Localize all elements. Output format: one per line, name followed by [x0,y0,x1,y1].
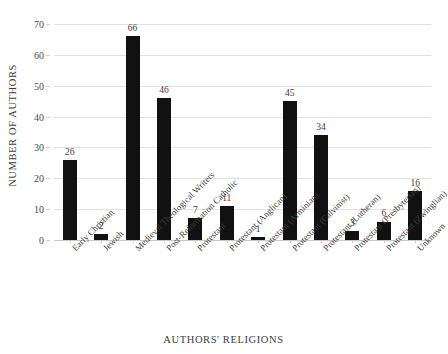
x-tick-mark [101,240,102,243]
x-axis-ticks: Early ChristianJewishMedieval Theologica… [54,240,431,335]
x-tick-mark [164,240,165,243]
gridline [54,55,431,56]
y-tick-mark [46,86,50,87]
x-tick-mark [321,240,322,243]
y-tick-mark [46,24,50,25]
x-axis-title: AUTHORS' RELIGIONS [0,334,447,345]
x-tick-mark [290,240,291,243]
bar [63,160,77,240]
bar-value-label: 66 [128,23,138,33]
bar-value-label: 46 [159,85,169,95]
y-tick-label: 0 [39,235,44,246]
y-tick-label: 40 [34,111,44,122]
y-tick-label: 20 [34,173,44,184]
gridline [54,147,431,148]
y-tick-label: 70 [34,19,44,30]
y-tick-label: 10 [34,204,44,215]
x-tick-mark [195,240,196,243]
bar-value-label: 26 [65,147,75,157]
y-tick-label: 60 [34,49,44,60]
y-tick-mark [46,178,50,179]
bar-value-label: 34 [316,122,326,132]
x-tick-mark [258,240,259,243]
bar [126,36,140,240]
y-tick-mark [46,147,50,148]
y-tick-label: 30 [34,142,44,153]
x-tick-mark [415,240,416,243]
x-tick-mark [352,240,353,243]
y-tick-mark [46,117,50,118]
gridline [54,24,431,25]
x-tick-mark [70,240,71,243]
gridline [54,178,431,179]
plot-area: 2626646711145343616 [54,24,431,240]
y-tick-mark [46,55,50,56]
y-axis-ticks: 010203040506070 [0,24,50,240]
y-tick-label: 50 [34,80,44,91]
gridline [54,86,431,87]
y-tick-mark [46,209,50,210]
x-tick-mark [133,240,134,243]
bar-value-label: 45 [285,88,295,98]
x-tick-mark [384,240,385,243]
y-tick-mark [46,240,50,241]
gridline [54,117,431,118]
x-tick-mark [227,240,228,243]
